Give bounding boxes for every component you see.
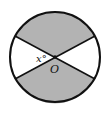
center-point <box>53 55 57 59</box>
circle-diagram: x° O <box>0 0 109 115</box>
center-label: O <box>50 63 59 76</box>
angle-label: x° <box>36 53 47 64</box>
